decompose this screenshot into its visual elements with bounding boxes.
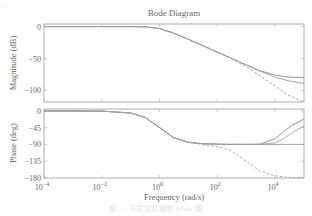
- phase-y-tick-label: 0: [37, 107, 41, 116]
- phase-curve-solid-2: [44, 111, 304, 144]
- x-tick-label: 104: [268, 181, 279, 192]
- magnitude-curves: [44, 27, 304, 102]
- magnitude-curve-solid-1: [44, 27, 304, 78]
- phase-y-tick-label: −135: [24, 157, 41, 166]
- magnitude-y-ticks: 0−50−100: [24, 23, 304, 96]
- phase-y-ticks: 0−45−90−135−180: [24, 107, 304, 183]
- x-axis-label: Frequency (rad/s): [144, 192, 204, 202]
- bode-diagram: Bode Diagram 0−50−100 Magnitude (dB) 0−4…: [0, 0, 312, 216]
- phase-panel: 0−45−90−135−180 Phase (deg): [8, 107, 304, 183]
- magnitude-curve-dashed: [44, 27, 304, 102]
- phase-curves: [44, 111, 304, 178]
- magnitude-axes-box: [44, 24, 304, 102]
- phase-y-tick-label: −90: [28, 140, 41, 149]
- magnitude-y-label: Magnitude (dB): [8, 36, 18, 91]
- magnitude-y-tick-label: −100: [24, 86, 41, 95]
- x-tick-labels: 10−410−2100102104: [35, 24, 279, 192]
- magnitude-y-tick-label: −50: [28, 55, 41, 64]
- phase-y-tick-label: −180: [24, 174, 41, 183]
- magnitude-curve-solid-2: [44, 27, 304, 84]
- phase-curve-solid-1: [44, 111, 304, 144]
- phase-y-tick-label: −45: [28, 124, 41, 133]
- x-tick-label: 100: [152, 181, 163, 192]
- x-tick-label: 10−2: [93, 181, 107, 192]
- phase-y-label: Phase (deg): [8, 123, 18, 163]
- magnitude-panel: 0−50−100 Magnitude (dB): [8, 23, 304, 102]
- x-tick-label: 102: [210, 181, 221, 192]
- figure-caption: 图 — 不同控制器的 Bode 图: [0, 203, 312, 213]
- x-tick-label: 10−4: [35, 181, 49, 192]
- chart-title: Bode Diagram: [148, 8, 201, 18]
- phase-curve-flat: [44, 111, 304, 144]
- magnitude-y-tick-label: 0: [37, 23, 41, 32]
